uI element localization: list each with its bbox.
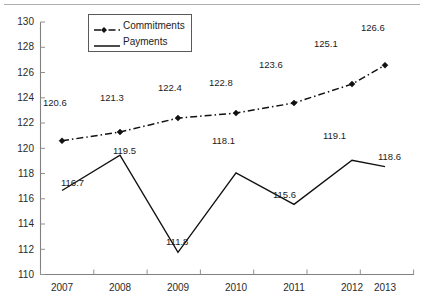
y-tick-label-110: 110 (6, 270, 34, 280)
y-tick-label-124: 124 (6, 93, 34, 103)
x-tick-label-2008: 2008 (100, 283, 140, 293)
x-tick-label-2009: 2009 (158, 283, 198, 293)
data-label-commitments-2008: 121.3 (100, 93, 124, 103)
legend-label-payments: Payments (123, 37, 167, 47)
x-tick-label-2013: 2013 (365, 283, 405, 293)
y-tick-label-130: 130 (6, 17, 34, 27)
legend-item-payments: Payments (93, 35, 167, 48)
series-line-payments (62, 155, 385, 252)
data-label-commitments-2013: 126.6 (361, 23, 385, 33)
legend-swatch-payments-icon (93, 37, 121, 47)
data-label-commitments-2007: 120.6 (43, 98, 67, 108)
y-tick-label-128: 128 (6, 42, 34, 52)
data-label-payments-2010: 118.1 (212, 136, 235, 146)
line-chart: 130 128 126 124 122 120 118 116 114 112 … (0, 0, 424, 303)
legend-item-commitments: Commitments (93, 19, 185, 32)
data-label-commitments-2012: 125.1 (314, 39, 338, 49)
y-tick-label-122: 122 (6, 118, 34, 128)
data-label-commitments-2011: 123.6 (259, 60, 283, 70)
y-tick-label-114: 114 (6, 219, 34, 229)
data-label-payments-2008: 119.5 (113, 146, 136, 156)
x-tick-label-2011: 2011 (274, 283, 314, 293)
y-tick-label-120: 120 (6, 144, 34, 154)
y-tick-label-126: 126 (6, 68, 34, 78)
y-tick-label-112: 112 (6, 245, 34, 255)
data-label-payments-2012: 119.1 (323, 131, 346, 141)
legend-label-commitments: Commitments (123, 21, 185, 31)
y-axis-ticks (41, 22, 46, 275)
data-label-payments-2011: 115.6 (273, 190, 296, 200)
y-tick-label-118: 118 (6, 169, 34, 179)
chart-legend: Commitments Payments (88, 14, 192, 52)
data-label-payments-2007: 116.7 (61, 178, 84, 188)
y-tick-label-116: 116 (6, 194, 34, 204)
data-label-commitments-2010: 122.8 (209, 78, 233, 88)
x-tick-label-2010: 2010 (216, 283, 256, 293)
data-label-commitments-2009: 122.4 (158, 83, 182, 93)
legend-swatch-commitments-icon (93, 21, 121, 31)
data-label-payments-2013: 118.6 (378, 152, 401, 162)
x-tick-label-2007: 2007 (42, 283, 82, 293)
data-label-payments-2009: 111.8 (166, 237, 188, 247)
x-axis-ticks (41, 270, 414, 275)
chart-plot-area (0, 0, 424, 303)
